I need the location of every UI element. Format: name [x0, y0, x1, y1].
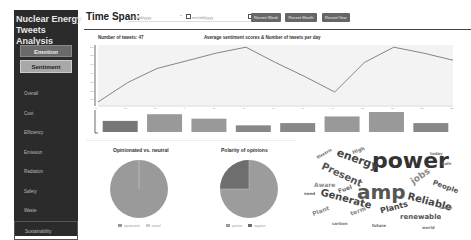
word-cloud-word: People	[432, 180, 460, 196]
recent-year-button[interactable]: Recent Year	[322, 13, 350, 22]
svg-text:0.3: 0.3	[90, 81, 94, 84]
word-cloud-word: Electric	[316, 148, 333, 160]
header-divider	[84, 29, 471, 30]
svg-text:0.6: 0.6	[90, 63, 94, 66]
svg-text:0.8: 0.8	[90, 54, 94, 57]
svg-text:t13: t13	[450, 107, 454, 109]
svg-text:0.2: 0.2	[90, 90, 94, 93]
sidebar: Nuclear Energy Tweets Analysis Emotion S…	[14, 10, 78, 236]
pie-charts-panel: Opinionated vs. neutral opinionated neut…	[86, 140, 296, 240]
svg-text:0.4: 0.4	[90, 72, 94, 75]
sidebar-item-radiation[interactable]: Radiation	[14, 162, 78, 182]
word-cloud-word: need	[304, 192, 315, 196]
end-date-placeholder: mm/dd/yyyy	[192, 15, 213, 20]
date-separator: -	[180, 12, 182, 18]
svg-text:t7: t7	[273, 107, 276, 109]
word-cloud-word: Aware	[314, 182, 335, 188]
svg-text:t4: t4	[184, 107, 187, 109]
word-cloud-word: today	[430, 152, 443, 156]
start-date-placeholder: mm/dd/yyyy	[130, 15, 151, 20]
polarity-legend: positive negative	[226, 224, 266, 228]
opinionated-legend: opinionated neutral	[118, 224, 161, 228]
emotion-button[interactable]: Emotion	[20, 45, 72, 57]
svg-text:t1: t1	[95, 107, 98, 109]
svg-text:t2: t2	[125, 107, 128, 109]
svg-text:1.0: 1.0	[90, 46, 94, 49]
sidebar-item-efficiency[interactable]: Efficiency	[14, 123, 78, 143]
word-cloud-word: renewable	[400, 214, 441, 221]
app-root: Nuclear Energy Tweets Analysis Emotion S…	[0, 0, 471, 240]
app-title: Nuclear Energy Tweets Analysis	[14, 14, 84, 47]
recent-month-button[interactable]: Recent Month	[285, 13, 317, 22]
word-cloud-word: safe	[442, 162, 452, 166]
svg-text:t8: t8	[302, 107, 305, 109]
svg-text:t3: t3	[154, 107, 157, 109]
svg-text:t9: t9	[332, 107, 335, 109]
recent-week-button[interactable]: Recent Week	[251, 13, 281, 22]
polarity-pie-chart	[218, 158, 280, 220]
svg-text:0.1: 0.1	[90, 98, 94, 101]
svg-text:t5: t5	[213, 107, 216, 109]
sidebar-item-waste[interactable]: Waste	[14, 201, 78, 221]
sidebar-nav: Overall Cost Efficiency Emission Radiati…	[14, 84, 78, 240]
word-cloud-word: clean	[440, 206, 452, 210]
sentiment-timeline-panel: Number of tweets: 47 Average sentiment s…	[86, 32, 470, 136]
sidebar-item-cost[interactable]: Cost	[14, 104, 78, 124]
word-cloud-word: carbon	[332, 222, 348, 226]
sidebar-item-safety[interactable]: Safety	[14, 182, 78, 202]
svg-text:t10: t10	[361, 107, 365, 109]
sidebar-item-overall[interactable]: Overall	[14, 84, 78, 104]
svg-text:t6: t6	[243, 107, 246, 109]
sidebar-item-sustainability[interactable]: Sustainability	[14, 221, 78, 240]
svg-text:t11: t11	[391, 107, 395, 109]
opinionated-pie-chart	[108, 158, 170, 220]
word-cloud: powerampenergyPresentGenerateReliablePla…	[302, 142, 469, 238]
start-date-input[interactable]: mm/dd/yyyy	[128, 13, 193, 22]
word-cloud-word: world	[422, 226, 435, 230]
end-date-input[interactable]: mm/dd/yyyy	[190, 13, 255, 22]
opinionated-pie-title: Opinionated vs. neutral	[113, 147, 169, 153]
word-cloud-word: future	[372, 224, 386, 228]
sentiment-button[interactable]: Sentiment	[20, 60, 72, 73]
sentiment-line-chart: 1.00.80.60.40.30.20.1 t1t2t3t4t5t6t7t8t9…	[86, 32, 470, 136]
sidebar-item-emission[interactable]: Emission	[14, 143, 78, 163]
word-cloud-word: term	[349, 205, 366, 216]
svg-text:t12: t12	[420, 107, 424, 109]
word-cloud-word: Plant	[312, 205, 331, 217]
polarity-pie-title: Polarity of opinions	[221, 147, 268, 153]
